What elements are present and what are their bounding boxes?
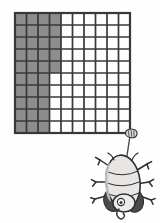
hanging-bug — [0, 0, 160, 223]
bug-claw-grip — [126, 129, 138, 138]
bug-head — [113, 194, 135, 219]
scene-canvas: Shaded grid with hanging bug 35/100 35 1… — [0, 0, 160, 223]
